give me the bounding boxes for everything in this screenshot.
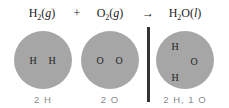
plus-sign: + [74,6,81,21]
h2o-circle: H O H [156,31,214,89]
atom-o: O [115,55,122,66]
o2-circle: O O [81,31,139,89]
product-h2o: H2O(l) [169,6,202,22]
atom-h: H [48,55,55,66]
reactant-h2: H2(g) [29,6,56,22]
reaction-arrow: → [142,6,154,21]
count-label: 2 H, 1 O [163,94,206,105]
reaction-divider [147,27,150,102]
atom-h: H [171,72,178,83]
atom-o: O [96,55,103,66]
reactant-o2: O2(g) [97,6,124,22]
atom-o: O [190,56,197,67]
atom-h: H [171,41,178,52]
h2-circle: H H [14,31,72,89]
count-label: 2 H [34,94,52,105]
count-label: 2 O [101,94,119,105]
atom-h: H [29,55,36,66]
